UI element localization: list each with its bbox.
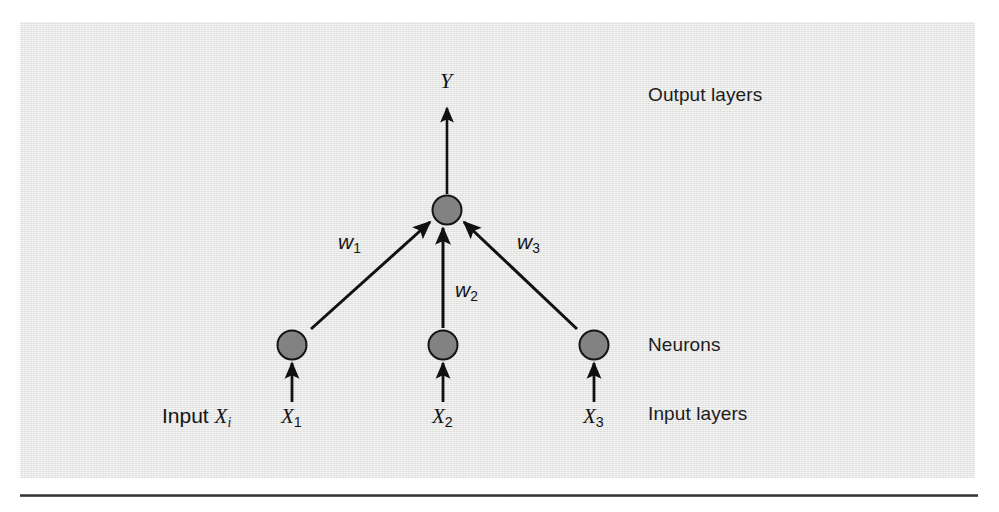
input-caption: Input Xi [162,404,231,431]
weight-label-w2: w2 [455,278,478,304]
input-x1-subscript: 1 [294,414,302,430]
weight-w3-subscript: 3 [532,240,540,256]
input-label-x2: X2 [432,404,453,430]
input-neuron-x3[interactable] [580,331,609,360]
input-x3-subscript: 3 [596,414,604,430]
weight-w2-variable: w [455,278,470,301]
output-variable-label: Y [440,68,452,94]
bottom-divider-rule [20,494,978,497]
weight-label-w1: w1 [338,230,361,256]
label-input-layers: Input layers [648,403,747,425]
weight-w2-subscript: 2 [470,288,478,304]
input-x3-variable: X [583,404,596,428]
weight-arrow-w1 [311,222,430,329]
diagram-panel: Output layers Neurons Input layers Y w1 … [20,22,975,478]
input-neuron-x1[interactable] [278,331,307,360]
weight-label-w3: w3 [517,230,540,256]
weight-w3-variable: w [517,230,532,253]
input-caption-prefix: Input [162,404,215,427]
input-x2-variable: X [432,404,445,428]
input-label-x1: X1 [281,404,302,430]
input-caption-subscript: i [227,415,231,430]
input-label-x3: X3 [583,404,604,430]
output-variable-text: Y [440,68,452,93]
input-x1-variable: X [281,404,294,428]
weight-w1-subscript: 1 [353,240,361,256]
label-output-layers: Output layers [648,84,762,106]
label-neurons: Neurons [648,334,721,356]
weight-w1-variable: w [338,230,353,253]
input-x2-subscript: 2 [445,414,453,430]
figure-root: Output layers Neurons Input layers Y w1 … [0,0,999,512]
input-caption-variable: X [215,404,228,428]
output-neuron[interactable] [433,196,462,225]
input-neuron-x2[interactable] [429,331,458,360]
